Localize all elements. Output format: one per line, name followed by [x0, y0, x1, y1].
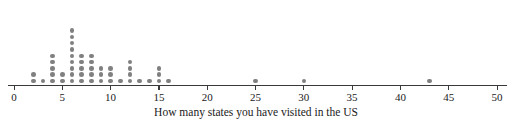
x-axis-title: How many states you have visited in the …: [154, 106, 358, 119]
data-dot: [118, 79, 123, 84]
data-dot: [253, 79, 258, 84]
data-dot: [157, 72, 162, 77]
data-dot: [99, 72, 104, 77]
data-dot: [41, 79, 46, 84]
data-dot: [50, 66, 55, 71]
x-axis-tick-label: 30: [298, 91, 309, 103]
data-dot: [70, 28, 75, 33]
x-axis-line: [8, 85, 507, 86]
data-dot: [89, 72, 94, 77]
x-axis-tick-label: 35: [347, 91, 358, 103]
data-dot: [302, 79, 307, 84]
data-dot: [70, 41, 75, 46]
data-dot: [50, 72, 55, 77]
data-dot: [70, 35, 75, 40]
data-dot: [79, 54, 84, 59]
x-axis-tick: [110, 85, 111, 90]
data-dot: [89, 66, 94, 71]
data-dot: [128, 72, 133, 77]
data-dot: [157, 66, 162, 71]
data-dot: [70, 79, 75, 84]
data-dot: [147, 79, 152, 84]
data-dot: [128, 79, 133, 84]
data-dot: [128, 66, 133, 71]
data-dot: [89, 54, 94, 59]
data-dot: [79, 66, 84, 71]
data-dot: [89, 60, 94, 65]
x-axis-tick-label: 40: [395, 91, 406, 103]
x-axis-tick: [158, 85, 159, 90]
x-axis-tick-label: 20: [202, 91, 213, 103]
x-axis-tick: [448, 85, 449, 90]
x-axis-tick-label: 10: [105, 91, 116, 103]
dot-plot-figure: 05101520253035404550 How many states you…: [0, 0, 512, 122]
data-dot: [50, 54, 55, 59]
data-dot: [79, 60, 84, 65]
x-axis-tick: [14, 85, 15, 90]
data-dot: [99, 66, 104, 71]
data-dot: [157, 79, 162, 84]
x-axis-tick: [497, 85, 498, 90]
x-axis-tick: [207, 85, 208, 90]
data-dot: [60, 79, 65, 84]
x-axis-tick-label: 5: [60, 91, 66, 103]
data-dot: [50, 60, 55, 65]
data-dot: [50, 79, 55, 84]
x-axis-tick-label: 0: [11, 91, 17, 103]
data-dot: [79, 72, 84, 77]
data-dot: [99, 79, 104, 84]
data-dot: [60, 72, 65, 77]
data-dot: [31, 72, 36, 77]
data-dot: [137, 79, 142, 84]
data-dot: [70, 66, 75, 71]
plot-area: 05101520253035404550: [0, 0, 512, 122]
x-axis-tick-label: 50: [492, 91, 503, 103]
data-dot: [70, 72, 75, 77]
data-dot: [108, 72, 113, 77]
data-dot: [108, 66, 113, 71]
x-axis-tick: [400, 85, 401, 90]
x-axis-tick: [62, 85, 63, 90]
data-dot: [108, 79, 113, 84]
data-dot: [31, 79, 36, 84]
data-dot: [79, 79, 84, 84]
x-axis-tick: [352, 85, 353, 90]
x-axis-tick: [255, 85, 256, 90]
data-dot: [166, 79, 171, 84]
data-dot: [89, 79, 94, 84]
x-axis-tick-label: 45: [443, 91, 454, 103]
data-dot: [427, 79, 432, 84]
data-dot: [70, 47, 75, 52]
x-axis-tick-label: 15: [153, 91, 164, 103]
data-dot: [70, 54, 75, 59]
data-dot: [128, 60, 133, 65]
x-axis-tick: [303, 85, 304, 90]
data-dot: [70, 60, 75, 65]
x-axis-tick-label: 25: [250, 91, 261, 103]
